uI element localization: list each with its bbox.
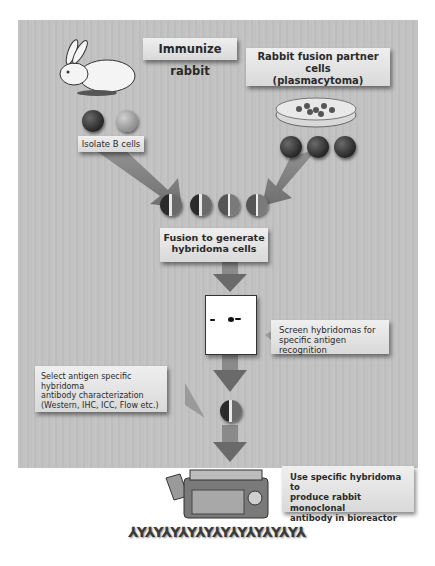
b-cell-icon [82,110,104,132]
bioreactor-icon [158,466,278,522]
label-line: hybridoma cells [160,243,268,254]
label-line: specific antigen recognition [279,335,381,355]
petri-dish-icon [274,95,358,129]
label-line: Use specific hybridoma to [290,472,406,492]
hybridoma-cell-icon [190,194,212,216]
label-line: Fusion to generate [160,232,268,243]
step-produce: Use specific hybridoma to produce rabbit… [282,466,414,512]
label-line: (Western, IHC, ICC, Flow etc.) [41,401,161,411]
label-line: antibody characterization [41,391,161,401]
step-immunize-rabbit: Immunize rabbit [143,38,237,60]
plasmacytoma-cell-icon [280,136,302,158]
step-fusion-partner-cells: Rabbit fusion partner cells (plasmacytom… [246,48,390,86]
label-line: Select antigen specific hybridoma [41,372,161,391]
step-screen: Screen hybridomas for specific antigen r… [271,320,389,354]
hybridoma-cell-icon [160,194,182,216]
hybridoma-cell-icon [218,194,240,216]
b-cell-icon [116,110,138,132]
label-line: (plasmacytoma) [246,75,390,87]
label-line: antibody in bioreactor [290,513,406,523]
hybridoma-cell-icon [220,400,242,422]
antibody-icon: ⅄Y⅄Y⅄Y⅄Y⅄Y⅄Y⅄Y⅄Y⅄Y⅄Y⅄ [128,524,300,552]
hybridoma-cell-icon [246,194,268,216]
plasmacytoma-cell-icon [334,136,356,158]
plasmacytoma-cell-icon [307,136,329,158]
label-line: Rabbit fusion partner cells [246,51,390,75]
label-line: produce rabbit monoclonal [290,492,406,512]
label-line: Screen hybridomas for [279,325,381,335]
step-isolate-b-cells: Isolate B cells [78,136,144,152]
western-blot-icon [205,295,257,355]
step-select: Select antigen specific hybridoma antibo… [35,366,167,412]
step-fusion: Fusion to generate hybridoma cells [160,228,268,262]
rabbit-icon [52,38,142,98]
